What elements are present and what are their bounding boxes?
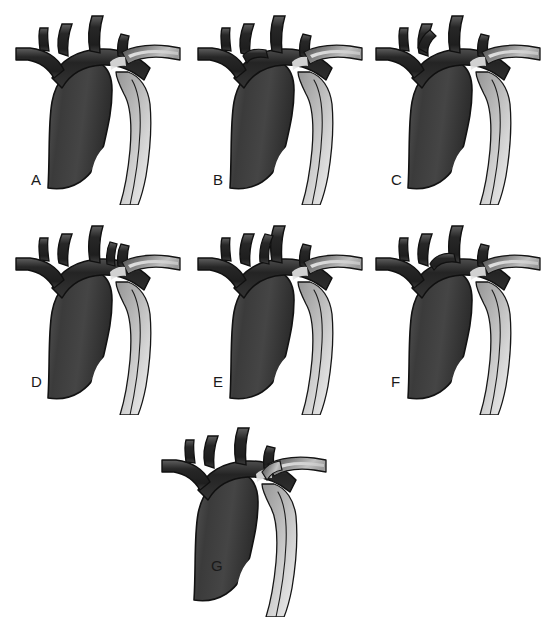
arch-diagram-g: [150, 418, 330, 617]
panel-label-f: F: [391, 374, 401, 389]
panel-label-b: B: [213, 172, 224, 187]
panel-label-a: A: [31, 172, 42, 187]
aortic-arch-variant-g[interactable]: [150, 418, 330, 617]
panel-label-d: D: [31, 374, 42, 389]
panel-label-g: G: [211, 558, 223, 573]
panel-label-c: C: [391, 172, 402, 187]
panel-label-e: E: [213, 374, 224, 389]
